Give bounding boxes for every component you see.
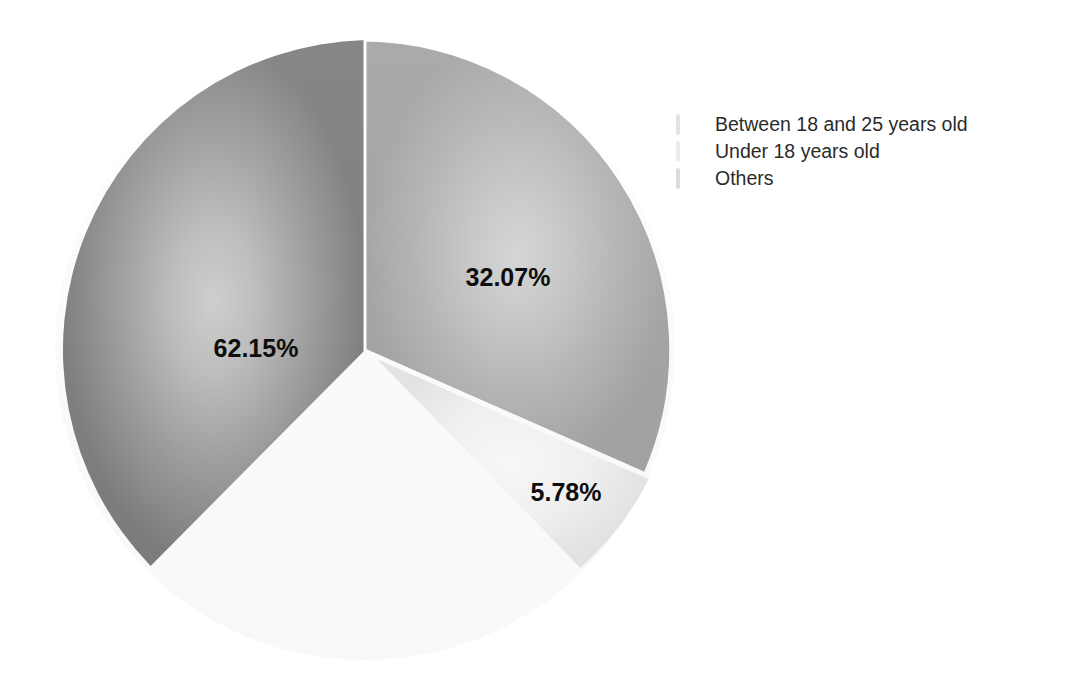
pie-rim-shading xyxy=(55,40,675,660)
legend-item-others[interactable]: Others xyxy=(676,166,1066,191)
pie-chart-canvas: 32.07% 62.15% 5.78% xyxy=(0,0,1086,678)
chart-legend: Between 18 and 25 years old Under 18 yea… xyxy=(676,112,1066,193)
pie-chart: 32.07% 62.15% 5.78% Between 18 and 25 ye… xyxy=(0,0,1086,678)
legend-swatch-others xyxy=(676,170,693,187)
legend-label-between-18-and-25: Between 18 and 25 years old xyxy=(715,112,968,137)
legend-swatch-between-18-and-25 xyxy=(676,116,693,133)
legend-label-under-18: Under 18 years old xyxy=(715,139,880,164)
slice-label-between-18-and-25: 32.07% xyxy=(466,263,551,291)
slice-label-others: 62.15% xyxy=(214,334,299,362)
legend-item-between-18-and-25[interactable]: Between 18 and 25 years old xyxy=(676,112,1066,137)
slice-label-under-18: 5.78% xyxy=(531,478,602,506)
legend-swatch-under-18 xyxy=(676,143,693,160)
legend-item-under-18[interactable]: Under 18 years old xyxy=(676,139,1066,164)
legend-label-others: Others xyxy=(715,166,774,191)
